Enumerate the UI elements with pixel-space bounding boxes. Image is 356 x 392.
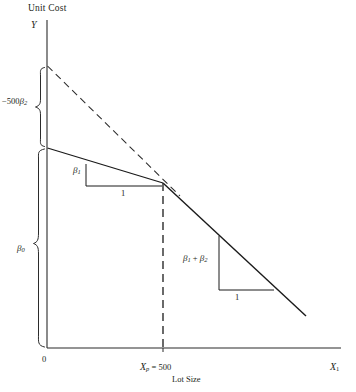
x-axis-caption: Lot Size [172, 375, 201, 384]
brace-label-minus-500-beta2: −500β2 [2, 91, 27, 107]
x-axis-label: X1 [330, 357, 339, 373]
slope-label-beta1-plus-beta2: β1 + β2 [183, 248, 208, 264]
brace-minus-500-beta2 [36, 68, 45, 147]
beta-subscript-1: 1 [77, 168, 80, 175]
chart-canvas [0, 0, 356, 392]
x-axis-label-subscript: 1 [336, 365, 339, 372]
beta-subscript-2: 2 [204, 256, 207, 263]
knot-label: Xp = 500 [140, 357, 171, 373]
minus-500-text: −500 [2, 96, 20, 106]
slope-label-beta1: β1 [73, 160, 81, 176]
brace-beta0 [34, 149, 45, 347]
run-label-1-left: 1 [121, 189, 125, 198]
regression-segment-1 [48, 148, 164, 183]
brace-label-beta0: β0 [17, 238, 25, 254]
run-label-1-right: 1 [235, 293, 239, 302]
chart-title: Unit Cost [28, 4, 67, 14]
origin-label: 0 [42, 355, 46, 364]
beta-subscript-0: 0 [21, 246, 24, 253]
plus-sign: + [191, 253, 200, 263]
extension-ray-dashed [48, 66, 181, 196]
beta-subscript-2: 2 [24, 99, 27, 106]
y-axis-label: Y [31, 20, 37, 30]
slope-triangle-2 [219, 236, 274, 290]
knot-label-value: = 500 [149, 362, 171, 372]
